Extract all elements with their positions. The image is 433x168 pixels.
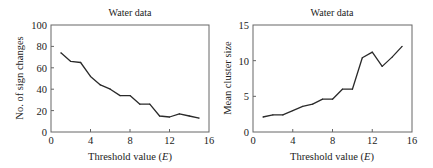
y-tick-label: 100 [31,20,47,31]
x-axis-label-suffix: ) [370,151,374,163]
x-tick-label: 0 [48,135,53,146]
y-tick-label: 60 [37,63,48,74]
x-tick-label: 4 [290,135,296,146]
data-point [282,114,283,115]
data-point [272,114,273,115]
data-point [262,116,263,117]
data-point [401,46,402,47]
x-tick-label: 16 [407,135,418,146]
data-point [199,117,200,118]
y-tick-label: 0 [244,127,249,138]
data-point [159,115,160,116]
data-point [382,66,383,67]
data-point [139,104,140,105]
chart-title: Water data [311,7,354,18]
x-tick-label: 8 [330,135,335,146]
x-axis-label-prefix: Threshold value ( [290,151,365,163]
data-point [322,99,323,100]
y-tick-label: 10 [239,56,250,67]
x-tick-label: 16 [204,135,215,146]
data-point [352,89,353,90]
data-point [362,57,363,58]
plot-frame [51,25,209,132]
data-point [189,115,190,116]
y-axis-label: Mean cluster size [222,41,233,115]
y-tick-label: 15 [239,20,250,31]
y-tick-label: 40 [37,84,48,95]
plot-frame [253,25,412,132]
x-tick-label: 4 [88,135,94,146]
figure: Water data 0481216 020406080100 Threshol… [0,0,433,168]
x-axis-label: Threshold value (E) [88,151,172,163]
data-point [129,95,130,96]
data-point [372,52,373,53]
y-tick-label: 5 [244,91,249,102]
data-point [60,52,61,53]
y-tick-label: 80 [37,41,48,52]
data-point [80,62,81,63]
data-point [100,84,101,85]
data-point [110,89,111,90]
y-tick-label: 0 [42,127,47,138]
data-line [61,53,199,118]
y-axis-label: No. of sign changes [14,36,25,119]
data-points [60,52,199,118]
data-point [70,61,71,62]
y-tick-label: 20 [37,106,48,117]
x-axis-label-suffix: ) [168,151,172,163]
data-point [312,104,313,105]
x-tick-label: 8 [127,135,132,146]
data-point [332,99,333,100]
data-point [169,116,170,117]
x-axis-label: Threshold value (E) [290,151,374,163]
data-point [120,95,121,96]
data-point [90,76,91,77]
data-point [392,57,393,58]
data-point [302,106,303,107]
data-line [263,46,402,117]
data-point [292,110,293,111]
chart-sign-changes: Water data 0481216 020406080100 Threshol… [14,7,214,163]
chart-title: Water data [109,7,152,18]
data-point [179,113,180,114]
x-tick-label: 0 [250,135,255,146]
chart-cluster-size: Water data 0481216 051015 Threshold valu… [222,7,417,163]
data-points [262,46,402,118]
data-point [342,89,343,90]
data-point [149,104,150,105]
x-tick-label: 12 [367,135,378,146]
x-axis-label-prefix: Threshold value ( [88,151,163,163]
x-tick-label: 12 [164,135,175,146]
